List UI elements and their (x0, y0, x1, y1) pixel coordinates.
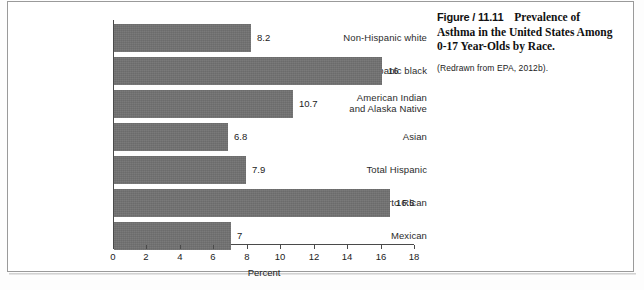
x-axis-tick (280, 245, 281, 249)
bar-value-label: 16.5 (396, 189, 415, 217)
bar-value-label: 7 (237, 222, 242, 250)
x-axis-tick-label: 2 (134, 251, 158, 262)
x-axis-tick-label: 10 (268, 251, 292, 262)
caption-source-note: (Redrawn from EPA, 2012b). (437, 63, 617, 73)
bar (114, 24, 251, 52)
bar-chart: Non-Hispanic whiteNon-Hispanic blackAmer… (7, 1, 427, 272)
x-axis-tick-label: 14 (335, 251, 359, 262)
x-axis-tick (347, 245, 348, 249)
x-axis-tick (113, 245, 114, 249)
bar (114, 189, 390, 217)
bar (114, 156, 246, 184)
x-axis-tick (314, 245, 315, 249)
x-axis-tick-label: 0 (101, 251, 125, 262)
x-axis-tick-label: 12 (302, 251, 326, 262)
bar-value-label: 16 (388, 57, 399, 85)
figure-caption: Figure / 11.11 Prevalence of Asthma in t… (437, 10, 617, 73)
plot-area: 8.21610.76.87.916.57 024681012141618 Per… (113, 20, 415, 244)
bar-value-label: 7.9 (252, 156, 265, 184)
x-axis-tick-label: 6 (201, 251, 225, 262)
x-axis-tick-label: 16 (369, 251, 393, 262)
x-axis-tick-label: 4 (168, 251, 192, 262)
bar (114, 123, 228, 151)
bar-value-label: 6.8 (234, 123, 247, 151)
x-axis-title: Percent (113, 267, 415, 278)
bar-value-label: 10.7 (299, 90, 318, 118)
caption-figure-number: Figure / 11.11 (437, 11, 503, 23)
x-axis-tick (414, 245, 415, 249)
x-axis-tick (180, 245, 181, 249)
x-axis-tick (381, 245, 382, 249)
x-axis-tick (213, 245, 214, 249)
caption-text: Figure / 11.11 Prevalence of Asthma in t… (437, 10, 617, 54)
x-axis-tick (247, 245, 248, 249)
x-axis-tick-label: 18 (402, 251, 426, 262)
bar (114, 57, 382, 85)
figure-container: Non-Hispanic whiteNon-Hispanic blackAmer… (0, 0, 644, 290)
bar (114, 90, 293, 118)
bar-value-label: 8.2 (257, 24, 270, 52)
x-axis-tick-label: 8 (235, 251, 259, 262)
x-axis-tick (146, 245, 147, 249)
